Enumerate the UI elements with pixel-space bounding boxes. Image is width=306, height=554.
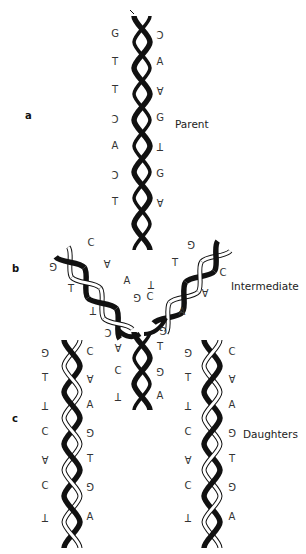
stem-base-left: A — [113, 342, 123, 352]
intermediate-right-base: C — [218, 268, 228, 278]
daughter-right-base-right: A — [227, 400, 237, 410]
parent-base-left: A — [110, 141, 120, 151]
daughter-left-base-right: A — [85, 400, 95, 410]
parent-base-right: A — [155, 85, 165, 95]
parent-base-left: G — [110, 29, 120, 39]
parent-base-left: T — [110, 197, 120, 207]
daughter-left-base-left: A — [40, 454, 50, 464]
parent-base-right: A — [155, 197, 165, 207]
stem-base-right: G — [155, 366, 165, 376]
daughter-left-base-left: C — [40, 427, 50, 437]
parent-base-left: C — [110, 169, 120, 179]
intermediate-right-base: G — [132, 292, 142, 302]
daughter-left-base-right: G — [85, 481, 95, 491]
parent-base-right: A — [155, 57, 165, 67]
dna-replication-diagram: a b c Parent Intermediate Daughters G T … — [0, 0, 306, 554]
daughter-right-base-left: G — [183, 347, 193, 357]
daughter-right-base-left: C — [183, 481, 193, 491]
stem-base-right: A — [155, 391, 165, 401]
daughter-right-base-left: A — [183, 454, 193, 464]
panel-letter-a: a — [25, 110, 32, 121]
parent-base-left: T — [110, 85, 120, 95]
daughter-left-helix — [64, 340, 80, 548]
daughter-left-base-left: C — [40, 481, 50, 491]
daughter-left-base-left: T — [40, 512, 50, 522]
daughter-right-base-left: T — [183, 512, 193, 522]
stem-base-left: C — [103, 327, 113, 337]
intermediate-stem — [134, 332, 150, 410]
label-intermediate: Intermediate — [231, 280, 299, 292]
daughter-left-base-right: T — [85, 454, 95, 464]
panel-letter-c: c — [12, 413, 18, 424]
daughter-right-base-right: G — [227, 481, 237, 491]
intermediate-right-base: T — [170, 258, 180, 268]
daughter-left-base-left: T — [40, 373, 50, 383]
panel-letter-b: b — [12, 263, 19, 274]
intermediate-right-base: G — [186, 239, 196, 249]
daughter-left-base-right: A — [85, 373, 95, 383]
stem-base-left: C — [113, 366, 123, 376]
stem-base-left: T — [113, 391, 123, 401]
daughter-right-base-right: G — [227, 427, 237, 437]
label-parent: Parent — [175, 118, 209, 130]
daughter-left-base-right: A — [85, 512, 95, 522]
daughter-right-base-right: T — [227, 454, 237, 464]
daughter-right-base-right: A — [227, 512, 237, 522]
intermediate-right-base: C — [145, 292, 155, 302]
intermediate-left-base: A — [122, 276, 132, 286]
daughter-right-base-left: T — [183, 373, 193, 383]
label-daughters: Daughters — [243, 428, 298, 440]
daughter-right-base-right: A — [227, 373, 237, 383]
parent-base-right: G — [155, 113, 165, 123]
daughter-left-base-left: T — [40, 400, 50, 410]
intermediate-right-base: A — [200, 287, 210, 297]
parent-base-right: C — [155, 29, 165, 39]
stem-base-right: T — [155, 342, 165, 352]
intermediate-right-base: A — [177, 307, 187, 317]
intermediate-left-base: C — [86, 238, 96, 248]
daughter-right-base-right: C — [227, 347, 237, 357]
daughter-left-base-right: G — [85, 427, 95, 437]
helix-artwork — [0, 0, 306, 554]
daughter-right-base-left: T — [183, 400, 193, 410]
parent-base-left: C — [110, 113, 120, 123]
intermediate-left-base: G — [48, 261, 58, 271]
stem-base-right: G — [158, 325, 168, 335]
parent-helix — [130, 10, 150, 250]
intermediate-right-base: T — [146, 279, 156, 289]
parent-base-right: T — [155, 141, 165, 151]
intermediate-left-base: A — [102, 258, 112, 268]
daughter-right-helix — [204, 340, 220, 548]
intermediate-left-base: T — [66, 284, 76, 294]
daughter-right-base-left: C — [183, 427, 193, 437]
parent-base-left: T — [110, 57, 120, 67]
parent-base-right: G — [155, 169, 165, 179]
daughter-left-base-left: G — [40, 347, 50, 357]
daughter-left-base-right: C — [85, 347, 95, 357]
intermediate-left-base: T — [88, 305, 98, 315]
